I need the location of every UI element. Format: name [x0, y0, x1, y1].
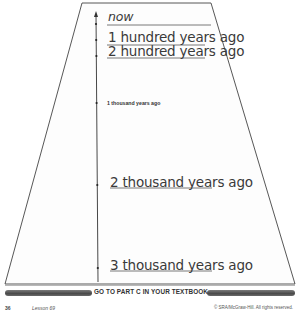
page-number: 36 — [5, 305, 11, 311]
label-2-thousand-years-ago: 2 thousand years ago — [110, 174, 253, 190]
footer-instruction: GO TO PART C IN YOUR TEXTBOOK. — [94, 288, 210, 295]
footer-bar-right — [207, 290, 295, 296]
label-1-thousand-years-ago: 1 thousand years ago — [107, 100, 160, 106]
lesson-label: Lesson 69 — [32, 305, 55, 311]
label-2-hundred-years-ago: 2 hundred years ago — [108, 43, 244, 59]
label-now: now — [108, 9, 133, 24]
label-3-thousand-years-ago: 3 thousand years ago — [110, 257, 253, 273]
copyright-notice: © SRA/McGraw-Hill. All rights reserved. — [214, 305, 293, 310]
footer-bar-left — [5, 290, 92, 296]
